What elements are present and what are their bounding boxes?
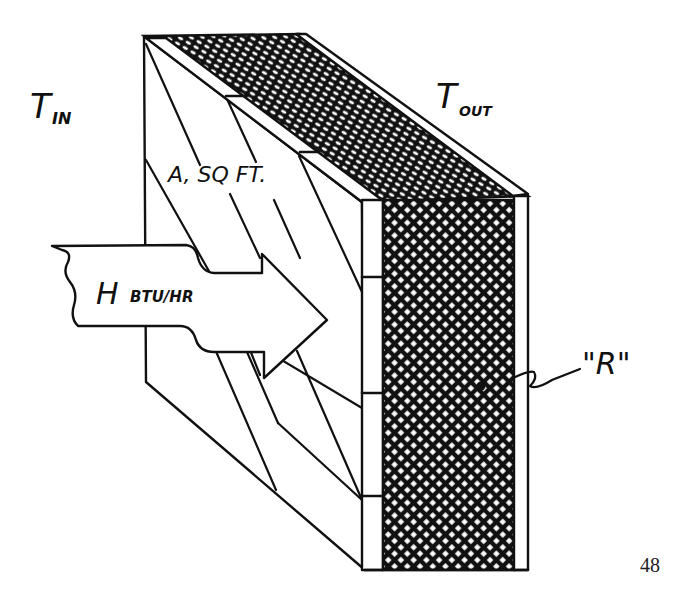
svg-text:IN: IN — [52, 109, 72, 128]
svg-text:OUT: OUT — [459, 103, 493, 119]
svg-text:T: T — [436, 76, 459, 116]
page-number: 48 — [640, 554, 660, 576]
area-label: A, SQ FT. — [166, 162, 266, 187]
outside-temp-label: T OUT — [436, 76, 493, 119]
inside-temp-label: T IN — [30, 86, 72, 128]
heat-flow-unit-label: BTU/HR — [130, 288, 193, 306]
wall-heat-flow-diagram: H BTU/HR "R" T IN T OUT A, SQ FT. 48 — [0, 0, 679, 610]
heat-flow-label: H — [96, 276, 119, 311]
wall-section — [362, 196, 528, 570]
resistance-label: "R" — [582, 346, 630, 381]
svg-text:T: T — [30, 86, 53, 126]
insulation-layer — [383, 200, 514, 570]
